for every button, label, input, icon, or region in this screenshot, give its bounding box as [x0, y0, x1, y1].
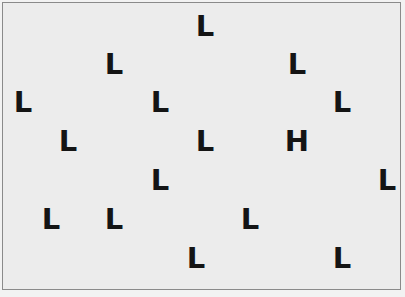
- distractor-letter: L: [286, 55, 308, 79]
- distractor-letter: L: [376, 171, 398, 195]
- distractor-letter: L: [239, 210, 261, 234]
- distractor-letter: L: [194, 17, 216, 41]
- distractor-letter: L: [331, 249, 353, 273]
- distractor-letter: L: [194, 132, 216, 156]
- distractor-letter: L: [149, 93, 171, 117]
- distractor-letter: L: [103, 55, 125, 79]
- distractor-letter: L: [149, 171, 171, 195]
- distractor-letter: L: [12, 93, 34, 117]
- target-letter: H: [286, 132, 308, 156]
- distractor-letter: L: [40, 210, 62, 234]
- distractor-letter: L: [185, 249, 207, 273]
- distractor-letter: L: [331, 93, 353, 117]
- distractor-letter: L: [103, 210, 125, 234]
- distractor-letter: L: [57, 132, 79, 156]
